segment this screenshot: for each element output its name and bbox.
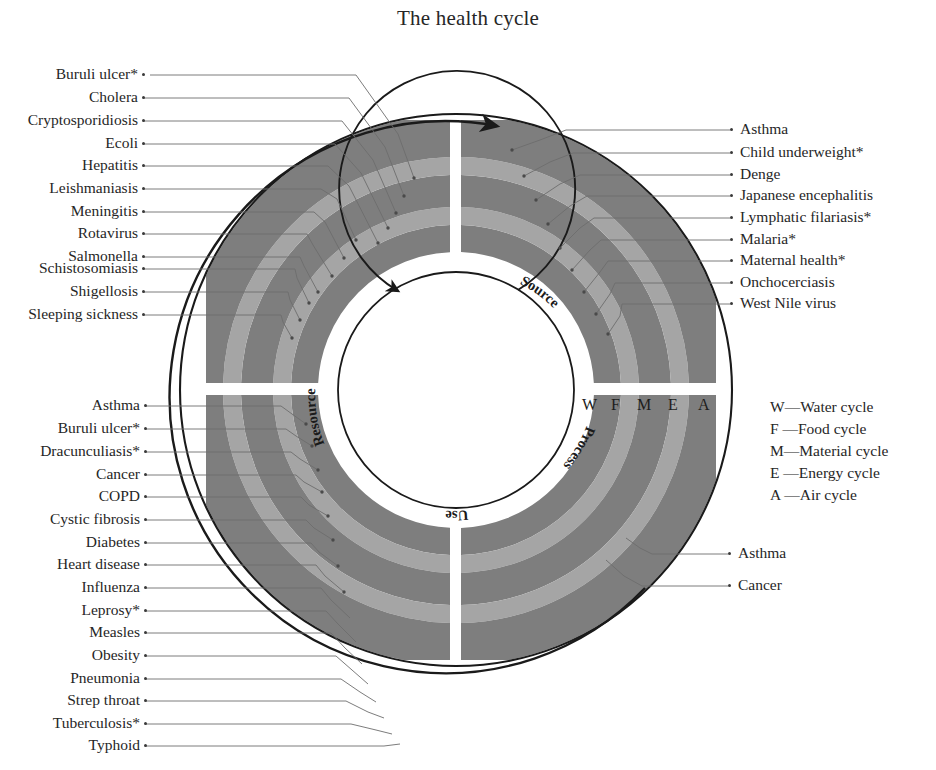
ring-axis-w: W	[582, 396, 597, 414]
label-top-right-2: Denge	[740, 166, 780, 182]
label-top-right-0: Asthma	[740, 121, 788, 137]
legend-item-energy: E —Energy cycle	[770, 462, 888, 484]
label-top-left-4: Hepatitis	[82, 157, 138, 173]
inner-circle	[338, 272, 574, 508]
cycle-legend: W—Water cycle F —Food cycle M—Material c…	[770, 396, 888, 506]
label-bottom-left-5: Cystic fibrosis	[50, 511, 140, 527]
legend-item-material: M—Material cycle	[770, 440, 888, 462]
label-bottom-left-6: Diabetes	[86, 534, 140, 550]
label-top-left-9: Schistosomiasis	[39, 260, 138, 276]
ring-axis-m: M	[637, 396, 651, 414]
ring-axis-e: E	[668, 396, 678, 414]
label-bottom-left-3: Cancer	[96, 466, 140, 482]
label-top-left-3: Ecoli	[105, 135, 138, 151]
label-top-left-11: Sleeping sickness	[28, 306, 138, 322]
label-bottom-left-12: Pneumonia	[70, 670, 140, 686]
label-bottom-left-8: Influenza	[81, 579, 140, 595]
label-top-right-5: Malaria*	[740, 231, 796, 247]
label-bottom-left-11: Obesity	[92, 647, 140, 663]
label-bottom-left-1: Buruli ulcer*	[58, 420, 140, 436]
label-top-left-7: Rotavirus	[78, 225, 138, 241]
health-cycle-diagram: The health cycle	[0, 0, 936, 770]
label-top-right-8: West Nile virus	[740, 295, 836, 311]
label-bottom-left-2: Dracunculiasis*	[40, 443, 140, 459]
label-bottom-left-0: Asthma	[92, 397, 140, 413]
label-top-left-1: Cholera	[89, 89, 138, 105]
label-bottom-right-1: Cancer	[738, 577, 782, 593]
label-bottom-left-14: Tuberculosis*	[53, 715, 140, 731]
label-top-right-4: Lymphatic filariasis*	[740, 209, 871, 225]
label-bottom-left-4: COPD	[99, 488, 140, 504]
label-top-left-5: Leishmaniasis	[49, 180, 138, 196]
label-top-left-6: Meningitis	[71, 203, 138, 219]
legend-item-water: W—Water cycle	[770, 396, 888, 418]
ring-axis-a: A	[698, 396, 710, 414]
label-top-right-7: Onchocerciasis	[740, 274, 835, 290]
label-top-left-0: Buruli ulcer*	[56, 66, 138, 82]
label-bottom-right-0: Asthma	[738, 545, 786, 561]
label-top-left-10: Shigellosis	[70, 283, 138, 299]
ring-axis-f: F	[611, 396, 620, 414]
inner-label-use: Use	[444, 507, 469, 524]
label-bottom-left-9: Leprosy*	[81, 602, 140, 618]
label-top-left-2: Cryptosporidiosis	[28, 112, 138, 128]
label-top-right-6: Maternal health*	[740, 252, 845, 268]
label-bottom-left-15: Typhoid	[89, 737, 140, 753]
diagram-canvas: Source Process Use Resource	[0, 0, 936, 770]
label-top-right-1: Child underweight*	[740, 144, 864, 160]
label-bottom-left-13: Strep throat	[67, 692, 140, 708]
legend-item-air: A —Air cycle	[770, 484, 888, 506]
label-bottom-left-7: Heart disease	[57, 556, 140, 572]
legend-item-food: F —Food cycle	[770, 418, 888, 440]
label-bottom-left-10: Measles	[89, 624, 140, 640]
label-top-right-3: Japanese encephalitis	[740, 187, 873, 203]
